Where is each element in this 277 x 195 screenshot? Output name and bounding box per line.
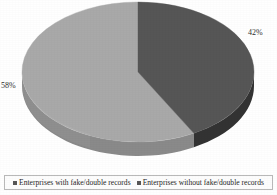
data-label-58-percent: 58% (1, 81, 16, 90)
data-label-42-percent: 42% (248, 28, 263, 37)
pie-svg (0, 0, 277, 170)
square-marker-icon (137, 181, 141, 185)
legend-label-without-records: Enterprises without fake/double records (143, 178, 264, 187)
legend-item-without-records[interactable]: Enterprises without fake/double records (137, 178, 264, 187)
square-marker-icon (13, 181, 17, 185)
pie-plot-area: 42% 58% (0, 0, 277, 170)
legend-label-with-records: Enterprises with fake/double records (19, 178, 131, 187)
legend-item-with-records[interactable]: Enterprises with fake/double records (13, 178, 131, 187)
pie-chart-figure: 42% 58% Enterprises with fake/double rec… (0, 0, 277, 195)
chart-legend: Enterprises with fake/double records Ent… (4, 175, 273, 190)
